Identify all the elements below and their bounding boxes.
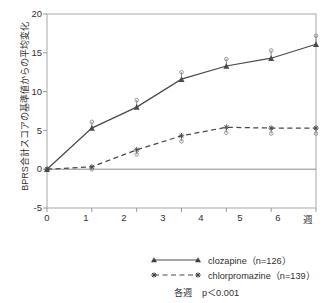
series-line: [47, 44, 316, 169]
data-point-marker: [44, 166, 50, 172]
data-point-marker: [224, 124, 230, 130]
series-layer: [44, 34, 319, 172]
data-point-marker: [268, 125, 274, 131]
legend-item-clozapine: clozapine（n=126）: [150, 252, 315, 267]
data-point-marker: [179, 133, 185, 139]
chart-container: BPRS合計スコアの基準値からの平均変化 20 15 10 5 0 -5 0 1…: [0, 0, 327, 303]
data-point-marker: [134, 104, 140, 110]
legend-symbol-solid-triangle: [150, 254, 202, 266]
legend-symbol-dashed-asterisk: [150, 269, 202, 281]
legend-label-clozapine: clozapine（n=126）: [208, 253, 291, 267]
data-point-marker: [313, 125, 319, 131]
significance-note: 各週 p＜0.001: [150, 284, 315, 299]
series-chlorpromazine: [44, 124, 319, 172]
note-label: 各週: [174, 285, 192, 299]
note-pvalue: p＜0.001: [202, 285, 239, 299]
axis-ticks: [43, 14, 316, 212]
plot-area: [0, 0, 327, 230]
data-point-marker: [134, 147, 140, 153]
legend-item-chlorpromazine: chlorpromazine（n=139）: [150, 267, 315, 282]
data-point-marker: [313, 41, 319, 47]
series-clozapine: [44, 34, 319, 172]
legend-label-chlorpromazine: chlorpromazine（n=139）: [208, 268, 315, 282]
data-point-marker: [89, 164, 95, 170]
chart-legend: clozapine（n=126） chlorpromazine（n=139: [150, 252, 315, 299]
data-point-marker: [89, 125, 95, 131]
plot-frame: [47, 14, 316, 208]
